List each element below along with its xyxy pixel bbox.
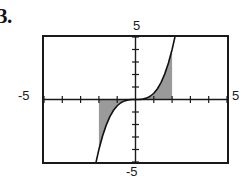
x-axis-min-label: -5 xyxy=(18,89,30,102)
problem-number-label: 3. xyxy=(0,6,12,27)
x-axis-max-label: 5 xyxy=(232,89,239,102)
y-axis-max-label: 5 xyxy=(133,19,140,32)
calculator-plot-svg xyxy=(0,0,248,184)
y-axis-min-label: -5 xyxy=(126,165,138,178)
graph-figure: 3. 5 -5 5 -5 xyxy=(0,0,248,184)
